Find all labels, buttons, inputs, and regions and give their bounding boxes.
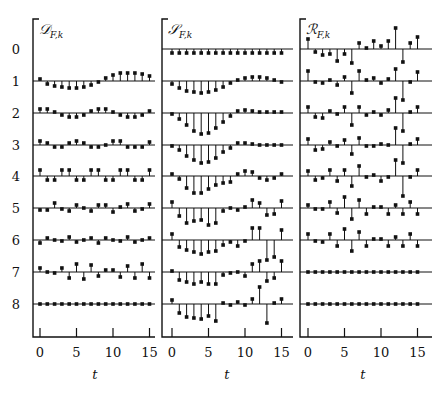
stem-marker (321, 116, 325, 120)
stem-marker (89, 209, 93, 213)
stem-marker (401, 161, 405, 165)
stem-marker (280, 228, 284, 232)
stem-marker (350, 249, 354, 253)
stem-marker (221, 181, 225, 185)
stem-marker (170, 144, 174, 148)
stem-marker (236, 51, 240, 55)
stem-marker (394, 126, 398, 130)
panel-s: 𝒮F,k051015t (162, 19, 293, 382)
stem-marker (38, 208, 42, 212)
stem-marker (343, 138, 347, 142)
stem-marker (350, 184, 354, 188)
stem-marker (178, 311, 182, 315)
stem-marker (343, 168, 347, 172)
stem-marker (372, 270, 376, 274)
stem-marker (104, 76, 108, 80)
stem-marker (343, 52, 347, 56)
stem-marker (328, 168, 332, 172)
stem-marker (199, 317, 203, 321)
stem-marker (365, 270, 369, 274)
stem-marker (321, 240, 325, 244)
stem-marker (133, 71, 137, 75)
stem-marker (328, 302, 332, 306)
stem-marker (185, 51, 189, 55)
stem-marker (119, 275, 123, 279)
stem-marker (178, 86, 182, 90)
stem-marker (104, 107, 108, 111)
stem-marker (236, 244, 240, 248)
stem-plot-figure: 012345678𝒟F,k051015t𝒮F,k051015tℛF,k05101… (0, 0, 440, 393)
stem-marker (111, 178, 115, 182)
stem-marker (111, 139, 115, 143)
stem-marker (67, 209, 71, 213)
stem-marker (321, 147, 325, 151)
stem-marker (97, 302, 101, 306)
stem-marker (328, 52, 332, 56)
stem-marker (119, 168, 123, 172)
stem-marker (67, 168, 71, 172)
stem-marker (75, 240, 79, 244)
stem-marker (207, 51, 211, 55)
stem-marker (38, 241, 42, 245)
stem-marker (229, 180, 233, 184)
stem-marker (365, 302, 369, 306)
stem-marker (111, 210, 115, 214)
stem-marker (46, 107, 50, 111)
stem-marker (89, 145, 93, 149)
stem-marker (185, 186, 189, 190)
stem-marker (328, 140, 332, 144)
stem-marker (111, 268, 115, 272)
stem-marker (387, 143, 391, 147)
stem-marker (133, 145, 137, 149)
stem-marker (401, 129, 405, 133)
stem-marker (365, 78, 369, 82)
stem-marker (343, 302, 347, 306)
stem-marker (214, 126, 218, 130)
stem-marker (53, 178, 57, 182)
stem-marker (126, 115, 130, 119)
stem-marker (272, 143, 276, 147)
stem-marker (306, 270, 310, 274)
stem-marker (251, 226, 255, 230)
stem-marker (229, 146, 233, 150)
stem-marker (265, 178, 269, 182)
stem-marker (343, 105, 347, 109)
stem-marker (126, 71, 130, 75)
stem-marker (357, 230, 361, 234)
stem-marker (53, 84, 57, 88)
stem-marker (82, 85, 86, 89)
stem-marker (394, 203, 398, 207)
stem-marker (82, 302, 86, 306)
stem-marker (258, 259, 262, 263)
stem-marker (328, 78, 332, 82)
stem-marker (265, 143, 269, 147)
stem-marker (394, 270, 398, 274)
stem-marker (321, 207, 325, 211)
stem-marker (89, 302, 93, 306)
stem-marker (379, 81, 383, 85)
stem-marker (236, 172, 240, 176)
stem-marker (38, 266, 42, 270)
stem-marker (75, 203, 79, 207)
stem-marker (133, 276, 137, 280)
stem-marker (229, 271, 233, 275)
stem-marker (306, 137, 310, 141)
stem-marker (89, 83, 93, 87)
stem-marker (379, 302, 383, 306)
stem-marker (350, 91, 354, 95)
stem-marker (133, 178, 137, 182)
stem-marker (46, 236, 50, 240)
stem-marker (314, 178, 318, 182)
stem-marker (335, 59, 339, 63)
stem-marker (258, 201, 262, 205)
row-label: 1 (12, 74, 20, 89)
stem-marker (379, 44, 383, 48)
stem-marker (236, 208, 240, 212)
x-tick-label: 15 (141, 345, 158, 360)
x-tick-label: 0 (168, 345, 176, 360)
stem-marker (119, 239, 123, 243)
stem-marker (236, 270, 240, 274)
stem-marker (306, 302, 310, 306)
stem-marker (89, 263, 93, 267)
stem-marker (185, 248, 189, 252)
